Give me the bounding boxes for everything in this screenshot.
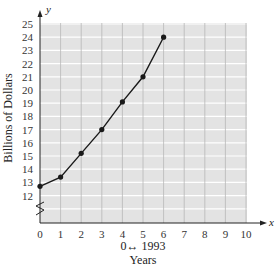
x-axis-variable: x xyxy=(268,216,274,228)
x-tick-label: 8 xyxy=(202,228,208,240)
y-tick-label: 17 xyxy=(22,124,34,136)
y-tick-label: 24 xyxy=(22,31,34,43)
x-tick-label: 0 xyxy=(37,228,43,240)
x-tick-label: 7 xyxy=(181,228,187,240)
data-point xyxy=(120,99,125,104)
x-tick-label: 1 xyxy=(58,228,64,240)
data-point xyxy=(161,35,166,40)
data-point xyxy=(37,184,42,189)
data-point xyxy=(140,74,145,79)
x-axis-note: 0↔ 1993 xyxy=(121,239,166,253)
y-tick-label: 20 xyxy=(22,84,34,96)
x-axis-arrow-icon xyxy=(260,221,267,226)
y-tick-label: 18 xyxy=(22,110,34,122)
y-axis-variable: y xyxy=(45,3,51,15)
y-tick-label: 25 xyxy=(22,18,34,30)
y-tick-label: 23 xyxy=(22,44,34,56)
data-point xyxy=(79,151,84,156)
y-tick-label: 22 xyxy=(22,58,33,70)
x-tick-label: 2 xyxy=(78,228,84,240)
y-tick-label: 14 xyxy=(22,163,34,175)
y-tick-labels: 1213141516171819202122232425 xyxy=(22,18,34,202)
y-tick-label: 13 xyxy=(22,176,34,188)
y-tick-label: 12 xyxy=(22,190,33,202)
y-axis-label: Billions of Dollars xyxy=(1,73,15,163)
y-axis-arrow-icon xyxy=(38,10,43,17)
y-tick-label: 15 xyxy=(22,150,34,162)
data-point xyxy=(58,175,63,180)
x-tick-label: 9 xyxy=(223,228,229,240)
line-chart: y x 012345678910 12131415161718192021222… xyxy=(0,0,276,267)
y-tick-label: 21 xyxy=(22,71,33,83)
x-tick-label: 10 xyxy=(241,228,253,240)
x-axis-label: Years xyxy=(130,253,157,267)
y-tick-label: 19 xyxy=(22,97,34,109)
y-tick-label: 16 xyxy=(22,137,34,149)
x-tick-label: 3 xyxy=(99,228,105,240)
plot-area xyxy=(40,23,247,223)
data-point xyxy=(99,127,104,132)
